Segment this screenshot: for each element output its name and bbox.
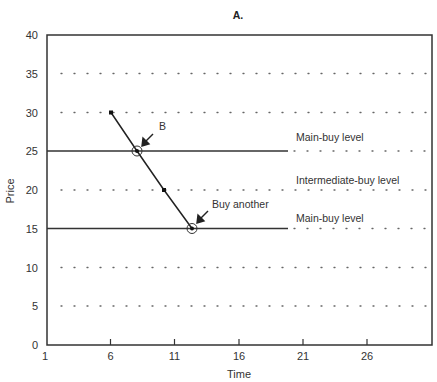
level-label-main-upper: Main-buy level (296, 131, 364, 143)
y-tick-label: 40 (26, 29, 38, 41)
y-tick-label: 15 (26, 223, 38, 235)
y-axis-labels: 0 5 10 15 20 25 30 35 40 (26, 29, 38, 351)
y-tick-label: 0 (32, 339, 38, 351)
x-axis-title: Time (227, 368, 251, 380)
y-tick-label: 5 (32, 300, 38, 312)
x-tick-label: 11 (169, 350, 180, 362)
x-tick-label: 6 (107, 350, 113, 362)
main-buy-levels (47, 151, 288, 229)
x-tick-label: 21 (297, 350, 309, 362)
x-tick-label: 16 (233, 350, 245, 362)
y-tick-label: 30 (26, 107, 38, 119)
annotation-b: B (159, 120, 166, 132)
annotation-buy-another: Buy another (212, 198, 269, 210)
y-tick-label: 25 (26, 145, 38, 157)
price-chart: A. 1 6 11 16 21 26 0 5 10 15 20 (0, 0, 437, 382)
level-label-main-lower: Main-buy level (296, 212, 364, 224)
price-path-line (111, 113, 192, 229)
x-tick-label: 26 (361, 350, 373, 362)
start-marker-icon (109, 111, 113, 115)
x-tick-label: 1 (42, 350, 48, 362)
chart-title: A. (233, 9, 244, 21)
y-axis-title: Price (4, 178, 16, 203)
arrow-to-b-icon (142, 134, 153, 146)
x-axis-ticks (111, 339, 368, 345)
y-tick-label: 20 (26, 184, 38, 196)
x-axis-labels: 1 6 11 16 21 26 (42, 350, 373, 362)
y-tick-label: 35 (26, 68, 38, 80)
arrow-to-buy-another-icon (197, 211, 208, 223)
dotted-gridlines (61, 74, 432, 307)
level-label-intermediate: Intermediate-buy level (296, 174, 399, 186)
y-tick-label: 10 (26, 262, 38, 274)
mid-marker-icon (162, 188, 166, 192)
